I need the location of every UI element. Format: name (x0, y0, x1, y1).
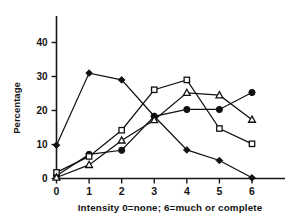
series-filled-circle (53, 89, 255, 178)
data-point-filled-circle (184, 106, 190, 112)
data-point-open-triangle (183, 89, 190, 95)
data-point-filled-diamond (86, 70, 93, 77)
data-series-group (53, 70, 255, 181)
x-tick-label: 3 (151, 185, 157, 197)
data-point-filled-circle (249, 89, 255, 95)
data-point-filled-diamond (249, 175, 256, 182)
y-tick-label: 20 (36, 105, 48, 116)
x-tick-label: 5 (216, 185, 222, 197)
y-tick-label: 10 (36, 139, 48, 150)
y-axis-label: Percentage (11, 82, 22, 134)
x-tick-label: 0 (54, 185, 60, 197)
data-point-open-triangle (118, 137, 125, 143)
data-point-open-square (217, 126, 222, 131)
line-chart: 010203040 0123456 Percentage Intensity 0… (0, 0, 302, 222)
x-axis-ticks: 0123456 (54, 179, 256, 197)
x-tick-label: 6 (249, 185, 255, 197)
data-point-filled-diamond (216, 157, 223, 164)
data-point-open-square (249, 141, 254, 146)
data-point-filled-circle (216, 106, 222, 112)
data-point-open-triangle (216, 92, 223, 98)
data-point-open-triangle (249, 116, 256, 122)
series-line-filled-circle (57, 92, 253, 175)
y-axis-ticks: 010203040 (36, 37, 56, 184)
data-point-open-square (184, 77, 189, 82)
data-point-open-square (86, 154, 91, 159)
series-line-open-triangle (57, 93, 253, 178)
data-point-open-triangle (86, 161, 93, 167)
y-tick-label: 30 (36, 71, 48, 82)
data-point-filled-diamond (53, 142, 60, 149)
x-tick-label: 4 (184, 185, 190, 197)
data-point-filled-circle (119, 147, 125, 153)
x-tick-label: 2 (119, 185, 125, 197)
series-open-square (54, 77, 255, 175)
data-point-open-square (152, 87, 157, 92)
chart-container: 010203040 0123456 Percentage Intensity 0… (0, 0, 302, 222)
data-point-open-square (119, 128, 124, 133)
y-tick-label: 40 (36, 37, 48, 48)
series-open-triangle (53, 89, 255, 180)
y-tick-label: 0 (42, 173, 48, 184)
x-axis-caption: Intensity 0=none; 6=much or complete (78, 202, 263, 213)
x-tick-label: 1 (86, 185, 92, 197)
